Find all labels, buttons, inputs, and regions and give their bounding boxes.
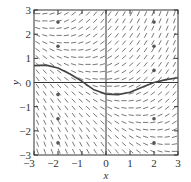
slope-segment (58, 106, 61, 110)
slope-segment (108, 11, 111, 15)
slope-segment (166, 84, 169, 88)
slope-segment (71, 71, 76, 73)
slope-segment (158, 92, 162, 96)
slope-segment (93, 19, 97, 23)
slope-segment (101, 19, 104, 23)
slope-segment (158, 69, 161, 73)
slope-segment (100, 64, 105, 66)
slope-segment (80, 142, 83, 147)
slope-segment (87, 149, 90, 154)
slope-segment (108, 149, 111, 153)
slope-segment (159, 18, 161, 23)
slope-segment (44, 149, 46, 154)
slope-segment (101, 26, 105, 30)
slope-segment (64, 49, 69, 50)
slope-segment (100, 114, 104, 117)
slope-segment (72, 127, 75, 132)
slope-segment (157, 129, 162, 130)
slope-segment (137, 48, 140, 52)
slope-segment (144, 26, 146, 31)
slope-segment (50, 84, 53, 88)
slope-segment (100, 71, 105, 72)
slope-segment (107, 100, 112, 102)
slope-segment (86, 92, 91, 95)
slope-segment (64, 27, 69, 29)
slope-segment (107, 71, 112, 73)
slope-segment (173, 69, 176, 74)
slope-segment (93, 26, 97, 30)
x-tick-label: 1 (127, 157, 133, 169)
slope-segment (78, 49, 83, 50)
slope-segment (86, 19, 90, 23)
slope-segment (165, 136, 170, 137)
slope-segment (58, 134, 60, 139)
slope-segment (100, 86, 105, 87)
slope-segment (166, 26, 168, 31)
slope-segment (158, 114, 163, 116)
marked-point (152, 141, 156, 145)
slope-segment (78, 34, 83, 36)
slope-segment (157, 122, 162, 124)
slope-segment (150, 107, 155, 109)
slope-segment (129, 143, 133, 146)
slope-segment (107, 63, 112, 65)
slope-segment (114, 114, 119, 116)
slope-segment (115, 135, 119, 139)
slope-segment (65, 106, 68, 110)
slope-segment (58, 113, 61, 118)
slope-segment (42, 35, 47, 37)
slope-segment (36, 84, 39, 88)
slope-segment (49, 35, 54, 36)
slope-segment (165, 106, 169, 109)
slope-segment (129, 85, 134, 87)
slope-segment (36, 113, 38, 118)
slope-segment (51, 98, 54, 102)
y-tick-label: −3 (19, 149, 31, 161)
slope-segment (122, 78, 127, 80)
slope-segment (65, 99, 68, 103)
slope-segment (42, 42, 47, 44)
slope-segment (65, 149, 67, 154)
slope-segment (173, 84, 176, 88)
slope-segment (57, 28, 62, 29)
y-tick-label: 0 (26, 77, 32, 89)
marked-point (152, 69, 156, 73)
y-tick-label: −1 (19, 101, 31, 113)
slope-segment (79, 27, 84, 30)
slope-segment (86, 12, 90, 16)
slope-segment (86, 127, 89, 131)
slope-segment (42, 28, 47, 29)
slope-segment (108, 128, 112, 132)
slope-segment (51, 106, 54, 111)
slope-segment (166, 11, 168, 16)
slope-segment (158, 99, 162, 102)
slope-segment (93, 78, 98, 79)
slope-segment (37, 134, 39, 139)
slope-segment (123, 26, 126, 30)
slope-segment (100, 121, 104, 125)
slope-segment (43, 56, 47, 59)
slope-segment (44, 134, 46, 139)
slope-segment (121, 114, 126, 116)
slope-segment (144, 77, 148, 81)
slope-segment (71, 57, 76, 58)
slope-segment (43, 77, 46, 81)
slope-segment (71, 42, 76, 43)
slope-segment (121, 85, 126, 87)
slope-segment (144, 33, 147, 38)
slope-segment (172, 121, 177, 124)
slope-segment (37, 120, 39, 125)
slope-segment (93, 99, 98, 102)
slope-segment (107, 78, 112, 79)
slope-segment (35, 27, 40, 29)
slope-segment (101, 135, 104, 139)
slope-segment (129, 63, 133, 67)
slope-segment (136, 107, 141, 108)
slope-segment (122, 149, 126, 153)
marked-point (56, 20, 60, 24)
slope-segment (57, 49, 62, 51)
slope-segment (107, 56, 112, 59)
slope-segment (166, 62, 169, 67)
slope-segment (71, 12, 75, 15)
slope-segment (115, 149, 118, 153)
